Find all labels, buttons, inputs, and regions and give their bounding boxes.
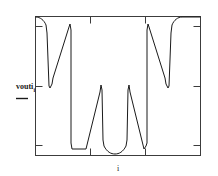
right-axis-ticks (194, 27, 201, 146)
top-axis-ticks (91, 17, 146, 24)
waveform-curve (36, 17, 200, 154)
plot-frame (36, 17, 201, 156)
left-axis-ticks (36, 27, 43, 146)
bottom-axis-ticks (91, 149, 146, 156)
y-axis-label: vouti (16, 82, 34, 91)
x-axis-label: i (117, 164, 120, 173)
figure-container: vouti i i (0, 0, 218, 176)
oscillator-waveform-plot: vouti i i (0, 0, 218, 176)
